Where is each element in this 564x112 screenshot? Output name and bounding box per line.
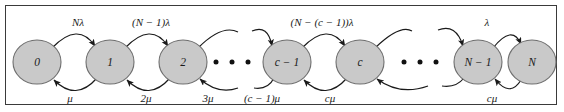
arc-backward-N-N1 (495, 79, 521, 89)
ellipsis-dot-icon (246, 60, 251, 65)
ellipsis-dot-icon (418, 60, 423, 65)
ellipsis-dot-icon (434, 60, 439, 65)
arc-forward-2-dots (198, 30, 238, 48)
state-node-N-1[interactable] (454, 40, 502, 84)
ellipsis-dot-icon (402, 60, 407, 65)
state-node-1[interactable] (86, 40, 134, 84)
ellipsis-dot-icon (214, 60, 219, 65)
arc-forward-c-dots (375, 29, 412, 48)
state-node-c[interactable] (336, 40, 384, 84)
state-node-N[interactable] (508, 40, 556, 84)
ellipsis-dot-icon (230, 60, 235, 65)
arc-forward-1-2 (125, 34, 168, 48)
arc-backward-c-c1 (304, 78, 347, 91)
arc-forward-0-1 (52, 34, 95, 48)
arc-backward-dots-c (377, 79, 428, 90)
ellipsis-left (214, 60, 251, 65)
state-node-2[interactable] (159, 40, 207, 84)
arc-backward-2-1 (127, 78, 170, 91)
arc-forward-dots-N1 (438, 28, 463, 46)
arc-backward-1-0 (54, 78, 97, 91)
arc-forward-c1-c (302, 34, 345, 48)
state-node-c-1[interactable] (263, 40, 311, 84)
ellipsis-right (402, 60, 439, 65)
state-transition-diagram: 0 1 2 c − 1 c N − 1 N Nλ (N − 1)λ (N − (… (0, 0, 564, 112)
arc-backward-dots-2 (200, 79, 238, 90)
arc-backward-N1-dots (442, 78, 464, 86)
diagram-canvas (0, 0, 564, 112)
arc-backward-c1-dots (254, 78, 274, 88)
state-node-0[interactable] (13, 40, 61, 84)
state-nodes (13, 40, 556, 84)
arc-forward-dots-c1 (252, 29, 272, 46)
